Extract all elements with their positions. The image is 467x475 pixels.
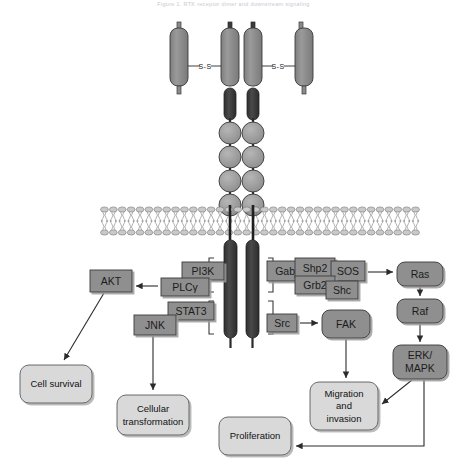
protein-box-pi3k[interactable]: PI3K — [182, 262, 224, 280]
protein-label: SOS — [337, 265, 359, 277]
node-label: Ras — [411, 268, 430, 280]
disulfide-bond-right: S‑S — [262, 63, 295, 70]
inner-left-ectodomain-rod — [221, 28, 239, 86]
outer-left-ectodomain-rod — [170, 28, 188, 86]
signaling-pathway-figure: Figure 1. RTK receptor dimer and downstr… — [0, 0, 467, 475]
node-fak[interactable]: FAK — [322, 310, 370, 338]
outcome-migration-invasion[interactable]: Migrationandinvasion — [310, 382, 378, 430]
outcome-cellular-transformation[interactable]: Cellulartransformation — [117, 395, 189, 435]
disulfide-bond-left: S‑S — [188, 63, 221, 70]
node-label: Raf — [412, 305, 428, 317]
protein-label: Shp2 — [303, 262, 328, 274]
protein-box-shc[interactable]: Shc — [326, 281, 358, 299]
node-ras[interactable]: Ras — [397, 262, 443, 286]
disulfide-label-right: S‑S — [271, 63, 284, 70]
arrow-akt-to-cell-survival — [64, 293, 104, 360]
protein-box-src[interactable]: Src — [267, 314, 297, 332]
protein-box-akt[interactable]: AKT — [90, 270, 132, 292]
outcome-label: and — [336, 400, 352, 411]
biological-outcome-boxes: Cell survivalCellulartransformationProli… — [20, 365, 378, 455]
protein-label: AKT — [101, 275, 122, 287]
right-kinase-domain — [246, 240, 259, 338]
outcome-label: invasion — [327, 413, 362, 424]
node-erk_mapk[interactable]: ERK/MAPK — [393, 345, 447, 379]
protein-label: PI3K — [192, 265, 215, 277]
node-raf[interactable]: Raf — [397, 299, 443, 323]
outcome-label: Cellular — [137, 403, 169, 414]
left-chain-dark-segment — [224, 88, 236, 120]
inner-right-ectodomain-rod — [244, 28, 262, 86]
protein-box-plcg[interactable]: PLCγ — [161, 278, 209, 296]
protein-box-shp2[interactable]: Shp2 — [295, 258, 335, 278]
left-kinase-domain — [224, 240, 237, 338]
outcome-cell-survival[interactable]: Cell survival — [20, 365, 92, 403]
receptor-extracellular-region: S‑S S‑S — [170, 22, 313, 216]
outcome-label: Cell survival — [30, 378, 81, 389]
pathway-canvas: S‑S S‑S — [0, 0, 467, 475]
node-label: MAPK — [405, 362, 435, 374]
protein-label: Shc — [333, 284, 351, 296]
right-chain-dark-segment — [247, 88, 259, 120]
node-label: FAK — [336, 318, 356, 330]
arrow-erk-to-migration — [382, 380, 412, 404]
outer-right-ectodomain-rod — [295, 28, 313, 86]
protein-label: Grb2 — [303, 279, 327, 291]
protein-box-jnk[interactable]: JNK — [134, 315, 176, 335]
outcome-proliferation[interactable]: Proliferation — [219, 417, 291, 455]
protein-label: Src — [274, 317, 290, 329]
protein-box-sos[interactable]: SOS — [331, 261, 365, 281]
node-label: ERK/ — [408, 349, 433, 361]
receptor-n-terminal-stubs — [177, 22, 303, 30]
protein-label: STAT3 — [175, 305, 206, 317]
outcome-label: Proliferation — [230, 430, 281, 441]
protein-label: JNK — [145, 319, 165, 331]
intracellular-kinase-domains — [224, 240, 259, 348]
outcome-label: Migration — [324, 388, 363, 399]
disulfide-label-left: S‑S — [198, 63, 211, 70]
protein-label: PLCγ — [172, 281, 198, 293]
outcome-label: transformation — [123, 416, 184, 427]
